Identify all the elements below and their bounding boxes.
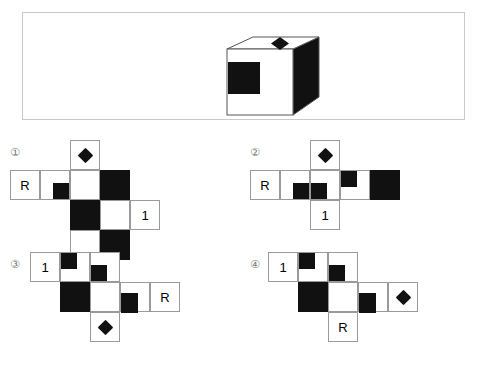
net-cell (328, 282, 358, 312)
cell-letter-r: R (11, 171, 39, 199)
partial-fill-top-left (61, 253, 77, 269)
cube-question-panel (22, 12, 465, 120)
option-2-label: ② (250, 147, 260, 158)
cell-digit-1: 1 (269, 253, 297, 281)
net-cell (90, 252, 120, 282)
net-cell-1: 1 (30, 252, 60, 282)
option-4-label: ④ (250, 259, 260, 270)
net-cell-r: R (150, 282, 180, 312)
cube-front-black-square (228, 62, 260, 94)
cell-letter-r: R (329, 313, 357, 341)
net-cell (100, 200, 130, 230)
net-cell-r: R (10, 170, 40, 200)
net-cell-black (100, 170, 130, 200)
partial-fill-top-left (341, 171, 357, 187)
partial-fill-bottom-right (293, 183, 309, 199)
net-cell (358, 282, 388, 312)
net-cell-1: 1 (130, 200, 160, 230)
net-cell-black (60, 282, 90, 312)
cube-svg (219, 29, 323, 129)
option-2[interactable]: ② R 1 (250, 140, 410, 240)
option-1[interactable]: ① R 1 (10, 140, 160, 240)
net-cell-r: R (328, 312, 358, 342)
net-cell-1: 1 (310, 200, 340, 230)
net-cell-r: R (250, 170, 280, 200)
net-cell-1: 1 (268, 252, 298, 282)
net-cell-black (370, 170, 400, 200)
net-cell (328, 252, 358, 282)
net-cell (388, 282, 418, 312)
net-cell (120, 282, 150, 312)
option-4[interactable]: ④ 1 R (250, 252, 410, 352)
diamond-icon (77, 147, 93, 163)
screenshot-root: ① R 1 ② (0, 0, 489, 365)
net-cell (60, 252, 90, 282)
cell-letter-r: R (251, 171, 279, 199)
net-cell (90, 312, 120, 342)
partial-fill-top-left (299, 253, 315, 269)
net-cell (340, 170, 370, 200)
cell-digit-1: 1 (311, 201, 339, 229)
cell-digit-1: 1 (31, 253, 59, 281)
diamond-icon (97, 319, 113, 335)
partial-fill-left (121, 293, 138, 313)
net-cell (70, 170, 100, 200)
cell-letter-r: R (151, 283, 179, 311)
net-cell (280, 170, 310, 200)
net-cell-black (298, 282, 328, 312)
net-cell (298, 252, 328, 282)
net-cell-black (70, 200, 100, 230)
partial-fill-bottom-left (329, 265, 345, 281)
partial-fill-bottom-left (91, 265, 107, 281)
partial-fill-bottom-left (311, 183, 327, 199)
option-3-label: ③ (10, 259, 20, 270)
option-3[interactable]: ③ 1 R (10, 252, 165, 352)
partial-fill-bottom-right (53, 183, 69, 199)
net-cell (310, 140, 340, 170)
net-cell (310, 170, 340, 200)
partial-fill-left (359, 293, 376, 313)
net-cell (40, 170, 70, 200)
diamond-icon (395, 289, 411, 305)
cube-right-face (293, 37, 319, 115)
option-1-label: ① (10, 147, 20, 158)
cube-figure (219, 29, 323, 129)
net-cell (70, 140, 100, 170)
cell-digit-1: 1 (131, 201, 159, 229)
net-cell (90, 282, 120, 312)
diamond-icon (317, 147, 333, 163)
